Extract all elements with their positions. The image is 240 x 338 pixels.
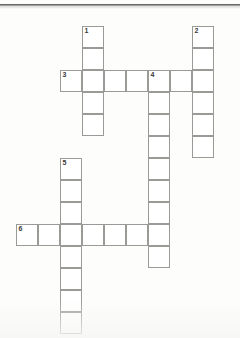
- crossword-cell[interactable]: [104, 70, 126, 92]
- cell-letter[interactable]: [149, 159, 169, 179]
- cell-letter[interactable]: [83, 71, 103, 91]
- crossword-cell[interactable]: [192, 114, 214, 136]
- crossword-cell[interactable]: [148, 92, 170, 114]
- cell-letter[interactable]: [83, 115, 103, 135]
- cell-letter[interactable]: [193, 137, 213, 157]
- cell-letter[interactable]: [83, 49, 103, 69]
- crossword-cell[interactable]: [192, 48, 214, 70]
- crossword-cell[interactable]: [148, 136, 170, 158]
- crossword-cell[interactable]: [148, 180, 170, 202]
- crossword-cell[interactable]: 1: [82, 26, 104, 48]
- crossword-cell[interactable]: [192, 92, 214, 114]
- cell-letter[interactable]: [149, 93, 169, 113]
- crossword-cell[interactable]: [148, 246, 170, 268]
- crossword-cell[interactable]: [60, 312, 82, 334]
- crossword-cell[interactable]: [82, 70, 104, 92]
- cell-letter[interactable]: [193, 93, 213, 113]
- cell-letter[interactable]: [127, 71, 147, 91]
- crossword-grid: 123456: [0, 0, 240, 338]
- crossword-cell[interactable]: [60, 268, 82, 290]
- cell-letter[interactable]: [149, 181, 169, 201]
- crossword-cell[interactable]: 6: [16, 224, 38, 246]
- crossword-cell[interactable]: [60, 180, 82, 202]
- cell-letter[interactable]: [61, 313, 81, 333]
- cell-letter[interactable]: [149, 71, 169, 91]
- cell-letter[interactable]: [61, 71, 81, 91]
- cell-letter[interactable]: [193, 71, 213, 91]
- crossword-cell[interactable]: 3: [60, 70, 82, 92]
- crossword-cell[interactable]: [192, 70, 214, 92]
- crossword-cell[interactable]: [148, 158, 170, 180]
- cell-letter[interactable]: [17, 225, 37, 245]
- crossword-cell[interactable]: [192, 136, 214, 158]
- crossword-cell[interactable]: [82, 48, 104, 70]
- cell-letter[interactable]: [61, 203, 81, 223]
- cell-letter[interactable]: [193, 27, 213, 47]
- crossword-cell[interactable]: [148, 202, 170, 224]
- cell-letter[interactable]: [149, 137, 169, 157]
- crossword-cell[interactable]: [38, 224, 60, 246]
- crossword-cell[interactable]: [60, 202, 82, 224]
- cell-letter[interactable]: [61, 247, 81, 267]
- crossword-cell[interactable]: [126, 70, 148, 92]
- crossword-cell[interactable]: 4: [148, 70, 170, 92]
- cell-letter[interactable]: [105, 71, 125, 91]
- cell-letter[interactable]: [127, 225, 147, 245]
- cell-letter[interactable]: [61, 269, 81, 289]
- cell-letter[interactable]: [39, 225, 59, 245]
- cell-letter[interactable]: [83, 27, 103, 47]
- crossword-cell[interactable]: [60, 224, 82, 246]
- crossword-page: 123456: [0, 0, 240, 338]
- cell-letter[interactable]: [83, 93, 103, 113]
- crossword-cell[interactable]: [60, 246, 82, 268]
- cell-letter[interactable]: [149, 247, 169, 267]
- crossword-cell[interactable]: [82, 114, 104, 136]
- crossword-cell[interactable]: [170, 70, 192, 92]
- cell-letter[interactable]: [149, 203, 169, 223]
- crossword-cell[interactable]: 2: [192, 26, 214, 48]
- cell-letter[interactable]: [193, 49, 213, 69]
- crossword-cell[interactable]: [82, 92, 104, 114]
- crossword-cell[interactable]: [126, 224, 148, 246]
- cell-letter[interactable]: [149, 115, 169, 135]
- cell-letter[interactable]: [105, 225, 125, 245]
- cell-letter[interactable]: [193, 115, 213, 135]
- crossword-cell[interactable]: [148, 114, 170, 136]
- crossword-cell[interactable]: [82, 224, 104, 246]
- cell-letter[interactable]: [171, 71, 191, 91]
- cell-letter[interactable]: [61, 225, 81, 245]
- crossword-cell[interactable]: [104, 224, 126, 246]
- crossword-cell[interactable]: [60, 290, 82, 312]
- cell-letter[interactable]: [149, 225, 169, 245]
- cell-letter[interactable]: [61, 181, 81, 201]
- cell-letter[interactable]: [83, 225, 103, 245]
- crossword-cell[interactable]: [148, 224, 170, 246]
- crossword-cell[interactable]: 5: [60, 158, 82, 180]
- cell-letter[interactable]: [61, 291, 81, 311]
- cell-letter[interactable]: [61, 159, 81, 179]
